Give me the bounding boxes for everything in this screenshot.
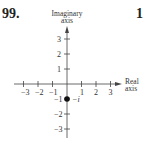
point-label: −i [72, 95, 80, 104]
y-tick-label: 1 [57, 65, 61, 74]
y-tick-label: 3 [57, 35, 61, 44]
complex-plane-diagram: −3 −2 −1 1 2 3 3 2 1 −1 −2 −3 Imaginary … [0, 0, 146, 151]
y-tick-label: 2 [57, 50, 61, 59]
imaginary-axis-label-2: axis [61, 16, 73, 25]
y-tick-label: −3 [54, 125, 63, 134]
x-tick-label: 1 [80, 88, 84, 97]
point-marker [64, 96, 70, 102]
y-tick-label: −1 [54, 95, 63, 104]
x-tick-label: −3 [21, 88, 30, 97]
x-tick-label: −2 [35, 88, 44, 97]
y-arrow-icon [65, 26, 69, 33]
x-tick-label: 2 [94, 88, 98, 97]
x-arrow-icon [115, 82, 122, 86]
x-tick-label: 3 [109, 88, 113, 97]
y-tick-label: −2 [54, 110, 63, 119]
real-axis-label-2: axis [125, 84, 137, 93]
